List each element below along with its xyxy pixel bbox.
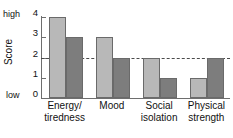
y-tick-label: 2 (26, 48, 38, 57)
bar (207, 58, 224, 99)
x-category-label-line1: Mood (99, 100, 124, 111)
bar (96, 37, 113, 98)
bar-chart: high low Score 01234 Energy/tirednessMoo… (0, 0, 233, 138)
bar-group (49, 17, 83, 98)
y-axis-high-label: high (3, 10, 20, 19)
bar-group (143, 17, 177, 98)
bar (160, 78, 177, 98)
x-category-label-line2: strength (179, 112, 233, 124)
y-axis-low-label: low (6, 91, 20, 100)
x-category-label-line2: tiredness (37, 112, 92, 124)
x-category-label-line1: Physical (188, 100, 225, 111)
y-axis-title: Score (4, 29, 14, 75)
bar (190, 78, 207, 98)
x-axis-category-labels: Energy/tirednessMoodSocialisolationPhysi… (41, 100, 230, 138)
x-category-label: Physicalstrength (179, 100, 233, 124)
y-tick-label: 3 (26, 28, 38, 37)
y-tick-label: 0 (26, 89, 38, 98)
bar-group (96, 17, 130, 98)
x-category-label-line1: Social (146, 100, 173, 111)
bars-layer (41, 17, 230, 98)
bar (143, 58, 160, 99)
y-tick-label: 4 (26, 8, 38, 17)
y-axis-tick-labels: 01234 (26, 12, 38, 98)
x-category-label-line1: Energy/ (47, 100, 81, 111)
x-axis-line (41, 98, 230, 99)
bar-group (190, 17, 224, 98)
plot-area (41, 17, 230, 98)
bar (113, 58, 130, 99)
y-tick-label: 1 (26, 68, 38, 77)
bar (66, 37, 83, 98)
bar (49, 17, 66, 98)
